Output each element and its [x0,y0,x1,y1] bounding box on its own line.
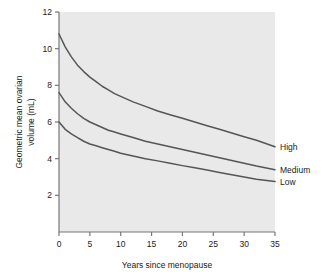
y-axis-label-line2: volume (mL) [26,98,36,145]
ovarian-volume-line-chart: 24681012 05101520253035 HighMediumLow Ye… [0,0,329,279]
x-axis-label: Years since menopause [122,260,213,270]
x-tick-label: 35 [270,239,280,249]
x-tick-label: 5 [87,239,92,249]
y-axis-label-line1: Geometric mean ovarian [14,75,24,168]
series-label-low: Low [280,177,296,187]
x-tick-label: 20 [178,239,188,249]
y-tick-label: 4 [47,154,52,164]
series-label-medium: Medium [280,165,310,175]
y-tick-label: 6 [47,117,52,127]
series-label-high: High [280,142,298,152]
y-tick-label: 8 [47,80,52,90]
y-tick-label: 10 [43,44,53,54]
x-tick-label: 0 [57,239,62,249]
x-tick-label: 25 [209,239,219,249]
x-tick-label: 15 [147,239,157,249]
x-tick-label: 30 [239,239,249,249]
chart-figure: 24681012 05101520253035 HighMediumLow Ye… [0,0,329,279]
x-tick-label: 10 [116,239,126,249]
y-tick-label: 2 [47,190,52,200]
y-tick-label: 12 [43,7,53,17]
